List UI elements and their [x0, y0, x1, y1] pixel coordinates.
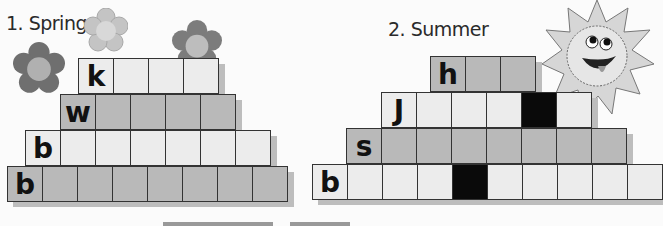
answer-cell[interactable] [235, 130, 271, 166]
answer-cell[interactable] [42, 166, 78, 202]
answer-cell[interactable] [148, 58, 184, 94]
letter-cell: J [381, 92, 417, 128]
letter-cell: h [430, 56, 466, 92]
answer-cell[interactable] [252, 166, 288, 202]
answer-cell[interactable] [452, 164, 488, 200]
answer-cell[interactable] [165, 130, 201, 166]
answer-cell[interactable] [130, 130, 166, 166]
letter-cell: b [25, 130, 61, 166]
puzzle-row: b [25, 130, 271, 165]
summer-title: 2. Summer [388, 18, 488, 40]
puzzle-row: k [78, 58, 219, 93]
answer-cell[interactable] [486, 92, 522, 128]
answer-cell[interactable] [556, 128, 592, 164]
answer-cell[interactable] [451, 128, 487, 164]
answer-cell[interactable] [521, 92, 557, 128]
letter-cell: k [78, 58, 114, 94]
letter-cell: s [346, 128, 382, 164]
answer-cell[interactable] [200, 130, 236, 166]
answer-cell[interactable] [130, 94, 166, 130]
answer-cell[interactable] [200, 94, 236, 130]
answer-cell[interactable] [451, 92, 487, 128]
answer-cell[interactable] [416, 92, 452, 128]
answer-cell[interactable] [347, 164, 383, 200]
puzzle-row: w [60, 94, 236, 129]
answer-cell[interactable] [183, 58, 219, 94]
puzzle-row: s [346, 128, 627, 163]
puzzle-row: J [381, 92, 592, 127]
answer-cell[interactable] [416, 128, 452, 164]
answer-cell[interactable] [556, 92, 592, 128]
answer-cell[interactable] [557, 164, 593, 200]
answer-cell[interactable] [60, 130, 96, 166]
answer-cell[interactable] [95, 130, 131, 166]
answer-cell[interactable] [217, 166, 253, 202]
answer-cell[interactable] [95, 94, 131, 130]
answer-cell[interactable] [417, 164, 453, 200]
flower-icon [84, 8, 128, 52]
puzzle-row: h [430, 56, 536, 91]
letter-cell: b [7, 166, 43, 202]
answer-cell[interactable] [486, 128, 522, 164]
answer-cell[interactable] [627, 164, 663, 200]
divider-line [163, 222, 273, 226]
answer-cell[interactable] [165, 94, 201, 130]
answer-cell[interactable] [522, 164, 558, 200]
answer-cell[interactable] [112, 166, 148, 202]
letter-cell: w [60, 94, 96, 130]
answer-cell[interactable] [182, 166, 218, 202]
letter-cell: b [312, 164, 348, 200]
answer-cell[interactable] [382, 164, 418, 200]
answer-cell[interactable] [113, 58, 149, 94]
answer-cell[interactable] [592, 164, 628, 200]
answer-cell[interactable] [77, 166, 113, 202]
flower-icon [12, 42, 66, 94]
spring-title: 1. Spring [6, 12, 87, 34]
answer-cell[interactable] [465, 56, 501, 92]
answer-cell[interactable] [381, 128, 417, 164]
answer-cell[interactable] [521, 128, 557, 164]
answer-cell[interactable] [487, 164, 523, 200]
puzzle-row: b [7, 166, 288, 201]
puzzle-row: b [312, 164, 663, 199]
answer-cell[interactable] [591, 128, 627, 164]
answer-cell[interactable] [500, 56, 536, 92]
answer-cell[interactable] [147, 166, 183, 202]
divider-line [290, 222, 350, 226]
